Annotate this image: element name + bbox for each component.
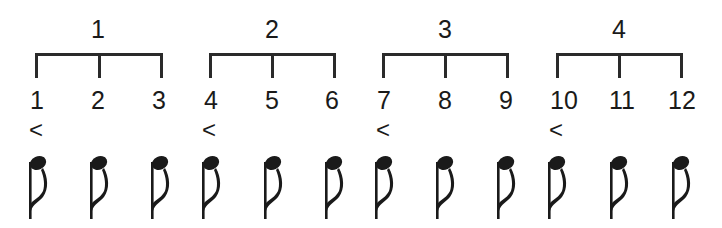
bracket-tick	[618, 53, 621, 78]
group-bracket	[209, 53, 336, 78]
eighth-note-icon	[608, 153, 634, 223]
beat-number: 6	[325, 88, 339, 113]
beat-number: 5	[265, 88, 279, 113]
eighth-note-icon	[27, 153, 53, 223]
accent-mark: <	[29, 118, 43, 142]
eighth-note-icon	[88, 153, 114, 223]
bracket-tick	[98, 53, 101, 78]
beat-number: 1	[30, 88, 44, 113]
accent-mark: <	[549, 118, 563, 142]
eighth-note-icon	[323, 153, 349, 223]
beat-number: 9	[499, 88, 513, 113]
group-bracket	[35, 53, 163, 78]
group-bracket	[556, 53, 683, 78]
group-label: 2	[265, 17, 279, 42]
beat-number: 4	[204, 88, 218, 113]
eighth-note-icon	[434, 153, 460, 223]
beat-number: 10	[550, 88, 578, 113]
eighth-note-icon	[373, 153, 399, 223]
eighth-note-icon	[149, 153, 175, 223]
accent-mark: <	[376, 118, 390, 142]
eighth-note-icon	[262, 153, 288, 223]
beat-number: 2	[91, 88, 105, 113]
bracket-tick	[444, 53, 447, 78]
eighth-note-icon	[495, 153, 521, 223]
eighth-note-icon	[200, 153, 226, 223]
beat-number: 8	[438, 88, 452, 113]
group-bracket	[382, 53, 509, 78]
eighth-note-icon	[670, 153, 696, 223]
eighth-note-icon	[546, 153, 572, 223]
bracket-tick	[271, 53, 274, 78]
group-label: 1	[91, 17, 105, 42]
group-label: 4	[612, 17, 626, 42]
beat-number: 3	[152, 88, 166, 113]
beat-number: 7	[377, 88, 391, 113]
accent-mark: <	[202, 118, 216, 142]
group-label: 3	[438, 17, 452, 42]
beat-number: 11	[609, 88, 635, 113]
beat-number: 12	[668, 88, 696, 113]
